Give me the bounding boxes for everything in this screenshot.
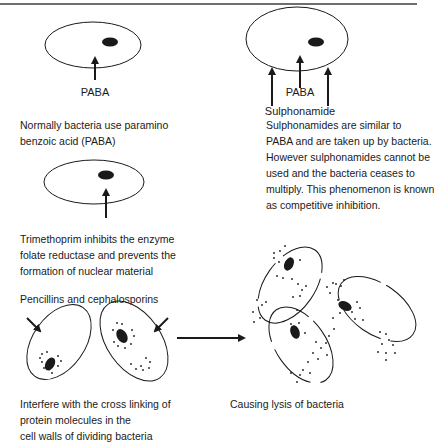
bacterium-normal [45, 22, 141, 80]
lysing-bacteria [245, 235, 417, 394]
nucleus-icon [102, 38, 118, 47]
paba-label: PABA [75, 85, 115, 99]
drug-arrow-icon [155, 318, 168, 331]
trimethoprim-caption: Trimethoprim inhibits the enzyme folate … [20, 231, 176, 279]
sulphonamide-caption: Sulphonamides are similar to PABA and ar… [266, 117, 434, 213]
nucleus-icon [98, 171, 114, 180]
normal-caption: Normally bacteria use paramino benzoic a… [20, 117, 168, 149]
penicillin-heading: Pencillins and cephalosporins [20, 291, 158, 307]
drug-arrow-icon [27, 318, 40, 331]
bacterium-trimethoprim [44, 160, 144, 218]
nucleus-icon [308, 38, 324, 47]
lysis-caption: Causing lysis of bacteria [230, 396, 344, 412]
penicillin-caption: Interfere with the cross linking of prot… [20, 396, 171, 444]
sulphonamide-label: Sulphonamide [250, 104, 350, 118]
paba-label: PABA [280, 85, 320, 99]
bacterium-dividing-a [14, 293, 105, 392]
